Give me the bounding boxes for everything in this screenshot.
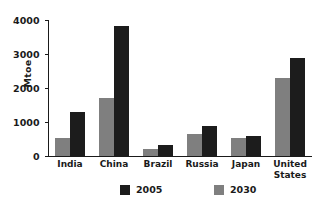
y-tick-mark: 0 — [45, 156, 49, 157]
x-tick-label: China — [92, 159, 136, 170]
x-tick-label: Japan — [224, 159, 268, 170]
x-tick-label: UnitedStates — [268, 159, 312, 180]
plot-area: 01000200030004000 IndiaChinaBrazilRussia… — [48, 20, 312, 156]
x-tick-label-line: China — [92, 159, 136, 170]
legend-entry-2030[interactable]: 2030 — [214, 184, 256, 195]
bar-china-2005[interactable] — [114, 26, 129, 156]
bar-japan-2030[interactable] — [231, 138, 246, 156]
bar-group: Japan — [224, 20, 268, 156]
bar-brazil-2030[interactable] — [143, 149, 158, 156]
bar-united-states-2005[interactable] — [290, 58, 305, 156]
x-tick-label: Russia — [180, 159, 224, 170]
bar-group-bars — [180, 20, 224, 156]
bar-united-states-2030[interactable] — [275, 78, 290, 156]
x-tick-label: Brazil — [136, 159, 180, 170]
bar-group-bars — [224, 20, 268, 156]
bar-group-bars — [92, 20, 136, 156]
bar-brazil-2005[interactable] — [158, 145, 173, 156]
bar-russia-2030[interactable] — [187, 134, 202, 156]
bar-group: China — [92, 20, 136, 156]
bar-india-2005[interactable] — [70, 112, 85, 156]
bar-group: Russia — [180, 20, 224, 156]
legend-swatch-icon — [214, 185, 224, 195]
x-tick-label-line: India — [48, 159, 92, 170]
legend-swatch-icon — [120, 185, 130, 195]
x-tick-label-line: States — [268, 170, 312, 181]
bar-chart: Mtoe 01000200030004000 IndiaChinaBrazilR… — [0, 0, 320, 208]
bar-russia-2005[interactable] — [202, 126, 217, 156]
x-axis-line — [48, 156, 312, 157]
x-tick-label-line: Russia — [180, 159, 224, 170]
y-tick-label: 3000 — [13, 49, 39, 60]
legend-entry-2005[interactable]: 2005 — [120, 184, 162, 195]
bar-japan-2005[interactable] — [246, 136, 261, 156]
x-tick-label-line: United — [268, 159, 312, 170]
bar-china-2030[interactable] — [99, 98, 114, 156]
x-tick-label: India — [48, 159, 92, 170]
bar-india-2030[interactable] — [55, 138, 70, 156]
bar-group: Brazil — [136, 20, 180, 156]
legend-label: 2030 — [230, 184, 256, 195]
bar-group-bars — [48, 20, 92, 156]
bar-group-bars — [136, 20, 180, 156]
legend-label: 2005 — [136, 184, 162, 195]
y-tick-label: 2000 — [13, 83, 39, 94]
y-tick-label: 1000 — [13, 117, 39, 128]
y-tick-label: 0 — [33, 151, 40, 162]
x-tick-label-line: Japan — [224, 159, 268, 170]
x-tick-label-line: Brazil — [136, 159, 180, 170]
bar-group: UnitedStates — [268, 20, 312, 156]
y-tick-label: 4000 — [13, 15, 39, 26]
chart-legend: 20052030 — [48, 184, 312, 200]
bar-group: India — [48, 20, 92, 156]
bar-group-bars — [268, 20, 312, 156]
